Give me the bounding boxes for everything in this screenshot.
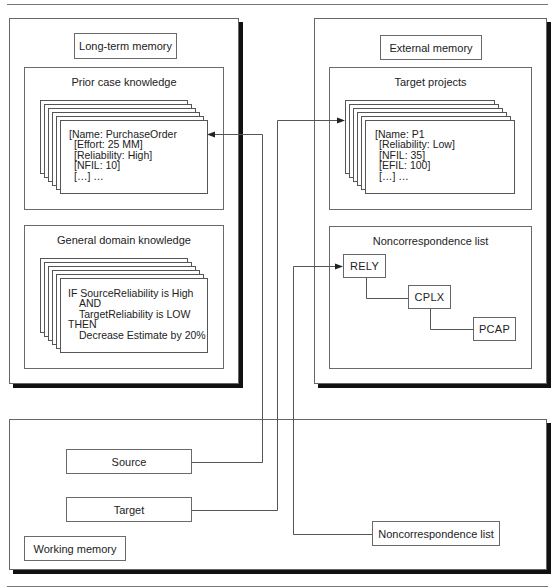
list-node-rely: RELY — [343, 254, 386, 278]
working-memory-target: Target — [66, 497, 192, 522]
prior-case-knowledge-title: Prior case knowledge — [25, 76, 223, 88]
noncorrespondence-list-title: Noncorrespondence list — [330, 235, 531, 247]
long-term-memory-label: Long-term memory — [74, 33, 177, 59]
external-memory-label: External memory — [380, 35, 482, 60]
target-project-card: [Name: P1 [Reliability: Low] [NFIL: 35] … — [365, 120, 515, 194]
target-projects-title: Target projects — [330, 76, 531, 88]
general-domain-knowledge-title: General domain knowledge — [25, 234, 223, 246]
card-line: […] … — [375, 171, 514, 181]
top-rule — [7, 4, 548, 5]
working-memory-noncorrespondence-list: Noncorrespondence list — [372, 521, 500, 546]
rule-line: Decrease Estimate by 20% — [68, 330, 207, 340]
domain-rule-card: IF SourceReliability is High AND TargetR… — [60, 278, 208, 353]
working-memory-label: Working memory — [24, 536, 126, 561]
card-line: [EFIL: 100] — [375, 160, 514, 170]
list-node-cplx: CPLX — [408, 285, 451, 309]
rule-line: THEN — [68, 319, 207, 329]
list-node-pcap: PCAP — [473, 317, 516, 341]
working-memory-source: Source — [66, 449, 192, 474]
card-line: […] … — [69, 171, 207, 181]
card-line: [NFIL: 10] — [69, 160, 207, 170]
prior-case-card: [Name: PurchaseOrder [Effort: 25 MM] [Re… — [60, 120, 208, 194]
